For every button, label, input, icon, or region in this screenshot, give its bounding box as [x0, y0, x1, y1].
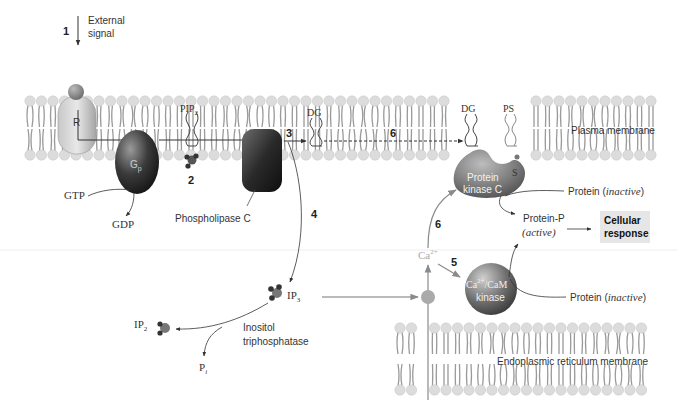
ip3-receptor-channel — [421, 290, 435, 304]
dg-lipid-right — [465, 114, 478, 146]
pip2-lipid — [186, 112, 198, 146]
step-6-side: 6 — [435, 218, 441, 230]
pi-release-arrow — [204, 327, 222, 356]
step-3: 3 — [286, 127, 292, 139]
pkc-label-2: kinase C — [463, 184, 502, 195]
ip2-molecule — [157, 321, 170, 335]
pkc-to-protein-p-arrow — [499, 196, 515, 214]
gtp-arrow — [88, 189, 130, 196]
protein-p-label: Protein-P — [523, 213, 565, 224]
camk-protein-line — [510, 279, 566, 297]
gtp-label: GTP — [64, 189, 85, 201]
receptor-label: R — [73, 117, 80, 128]
step-6-top: 6 — [390, 127, 396, 139]
s-label: S — [512, 167, 518, 178]
cellular-response-label-1: Cellular — [604, 215, 641, 226]
ca-label: Ca2+ — [418, 248, 438, 261]
phospholipase-c-label: Phospholipase C — [175, 213, 251, 224]
external-signal-label-2: signal — [88, 28, 114, 39]
step-2: 2 — [188, 174, 194, 186]
ip2-label: IP2 — [134, 318, 148, 333]
inositol-label-1: Inositol — [243, 322, 275, 333]
gdp-arrow — [126, 193, 134, 216]
active-label: (active) — [522, 226, 556, 239]
phospholipase-c — [242, 129, 282, 192]
camk-label-2: kinase — [476, 292, 505, 303]
ps-label: PS — [503, 103, 514, 114]
gdp-label: GDP — [112, 218, 134, 230]
serine-headgroup — [515, 155, 520, 160]
dg-label-right: DG — [461, 103, 475, 114]
step-4: 4 — [311, 208, 318, 220]
signaling-diagram: R 1 External signal Gp GTP GDP PIP2 2 Ph… — [0, 0, 677, 413]
external-signal-label-1: External — [88, 15, 125, 26]
er-membrane-label: Endoplasmic reticulum membrane — [497, 356, 649, 367]
step-5: 5 — [451, 256, 457, 268]
plc-leader-line — [247, 190, 255, 206]
cellular-response-label-2: response — [604, 228, 649, 239]
plasma-membrane-label: Plasma membrane — [571, 125, 655, 136]
receptor: R — [58, 84, 96, 154]
pi-label: Pi — [199, 361, 207, 376]
inositol-headgroup-pip2 — [184, 153, 198, 168]
ip3-label: IP3 — [287, 289, 301, 304]
signal-ligand — [68, 84, 84, 100]
ip3-molecule — [268, 284, 282, 301]
pkc-label-1: Protein — [467, 172, 499, 183]
ca-to-pkc-arrow — [428, 190, 456, 248]
ip3-release-arrow — [288, 142, 301, 282]
ps-lipid — [505, 114, 517, 146]
dg-label-left: DG — [307, 107, 321, 118]
inositol-label-2: triphosphatase — [243, 336, 309, 347]
protein-inactive-label-1: Protein (inactive) — [568, 185, 644, 197]
camk-label-1: Ca2+/CaM — [466, 277, 507, 290]
protein-inactive-label-2: Protein (inactive) — [570, 291, 646, 303]
step-1: 1 — [63, 25, 69, 37]
